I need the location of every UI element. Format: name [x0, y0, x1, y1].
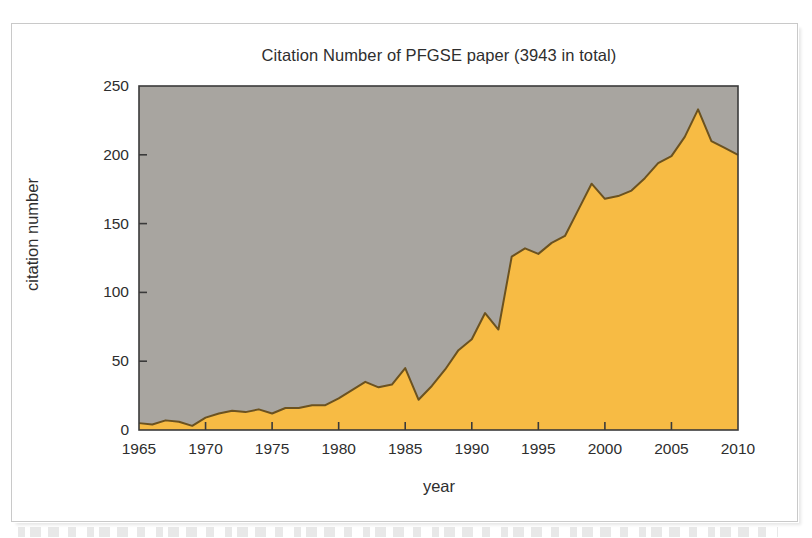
- x-axis-title: year: [139, 477, 739, 496]
- y-tick-label: 200: [83, 146, 129, 164]
- x-tick-label: 2010: [708, 440, 768, 458]
- y-axis-title: citation number: [23, 145, 42, 325]
- x-tick-label: 1990: [442, 440, 502, 458]
- citation-area-chart: Citation Number of PFGSE paper (3943 in …: [0, 0, 812, 538]
- x-tick-label: 1995: [508, 440, 568, 458]
- y-tick-label: 150: [83, 215, 129, 233]
- x-tick-label: 1970: [176, 440, 236, 458]
- y-tick-label: 0: [83, 421, 129, 439]
- scan-artifact-text: [18, 527, 778, 537]
- x-tick-label: 1985: [375, 440, 435, 458]
- y-tick-label: 250: [83, 77, 129, 95]
- x-tick-label: 1980: [309, 440, 369, 458]
- x-tick-label: 2005: [641, 440, 701, 458]
- y-tick-label: 50: [83, 352, 129, 370]
- x-tick-label: 1975: [242, 440, 302, 458]
- y-tick-label: 100: [83, 283, 129, 301]
- x-tick-label: 1965: [109, 440, 169, 458]
- x-tick-label: 2000: [575, 440, 635, 458]
